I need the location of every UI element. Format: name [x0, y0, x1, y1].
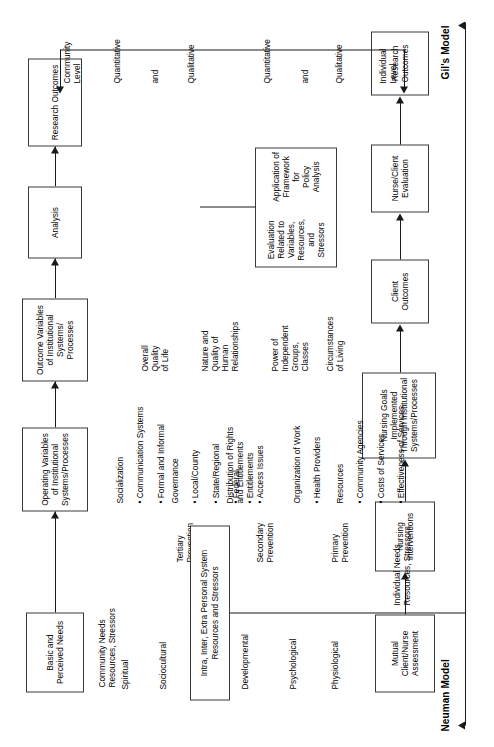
neuman-box-mutual-assessment[interactable]: Mutual Client/Nurse Assessment — [375, 614, 435, 692]
neuman-variable-sociocultural: Sociocultural — [158, 641, 168, 689]
gil-group-governance-item-2: • — [231, 498, 241, 503]
gil-group-socialization-heading: Socialization — [115, 456, 125, 503]
outcome-bracket-arm-neuman — [404, 49, 405, 87]
gil-rights-item-1-label: Access Issues — [255, 445, 265, 498]
gil-arrow-3 — [51, 258, 59, 265]
gil-resources-item-1-label: Costs of Services — [376, 433, 386, 498]
gil-outcome-quality-of-life: Overall Quality of Life — [140, 345, 170, 371]
evaluation-box-stem — [200, 206, 256, 207]
gil-box-analysis[interactable]: Analysis — [28, 186, 82, 258]
gil-orgwork-item-0-label: Health Providers — [312, 436, 322, 497]
gil-group-socialization-item-0: • — [135, 498, 145, 503]
gil-box-basic-needs[interactable]: Basic and Perceived Needs — [26, 612, 84, 692]
gil-group-governance-heading: Governance — [170, 458, 180, 503]
gil-method-and: and — [150, 69, 160, 83]
gil-group-rights-item-1: • — [255, 498, 265, 503]
gil-box-outcome-variables[interactable]: Outcome Variables of Institutional Syste… — [22, 298, 88, 381]
gil-method-quantitative: Quantitative — [112, 39, 122, 83]
neuman-prevention-secondary: Secondary Prevention — [255, 522, 275, 562]
outcome-bracket-arrow-gil — [56, 86, 64, 93]
gils-model-title: Gil's Model — [440, 25, 452, 79]
gil-group-governance-item-0: • — [190, 498, 200, 503]
neuman-connector-3 — [400, 330, 401, 372]
gil-arrow-4 — [51, 146, 59, 153]
neuman-box-stressors[interactable]: Intra, Inter, Extra Personal System Reso… — [190, 525, 230, 700]
evaluation-detail-text-1: Evaluation Related to Variables, Resourc… — [266, 216, 327, 263]
gil-outcome-human-relationships: Nature and Quality of Human Relationship… — [200, 321, 240, 371]
neuman-method-and: and — [300, 69, 310, 83]
gil-group-orgwork-item-0: • — [312, 498, 322, 503]
gil-group-socialization-item-1: • — [156, 498, 166, 503]
gil-connector-1 — [55, 511, 56, 613]
neuman-arrow-4 — [396, 213, 404, 220]
gil-outcome-level: Community Level — [62, 41, 82, 83]
neuman-box-client-outcomes[interactable]: Client Outcomes — [371, 259, 429, 323]
gil-governance-item-2-label: Federal — [231, 470, 241, 498]
baseline-rule — [465, 22, 466, 725]
gil-arrow-1 — [51, 511, 59, 518]
neuman-prevention-primary: Primary Prevention — [330, 522, 350, 562]
gil-group-resources: Resources • Community Agencies • Costs o… — [325, 405, 406, 503]
gil-group-governance: Governance • Local/County • State/Region… — [160, 443, 241, 503]
gil-group-organization-of-work: Organization of Work • Health Providers — [282, 425, 322, 503]
evaluation-detail-text-2: Application of Framework for Policy Anal… — [271, 151, 322, 202]
gil-group-orgwork-heading: Organization of Work — [292, 425, 302, 503]
gil-outcome-circumstances: Circumstances of Living — [325, 316, 345, 371]
gil-group-resources-heading: Resources — [335, 463, 345, 503]
gil-box-operating-variables[interactable]: Operating Variables of Institutional Sys… — [22, 427, 88, 511]
neuman-model-title: Neuman Model — [440, 659, 452, 731]
neuman-box-nurse-client-evaluation[interactable]: Nurse/Client Evaluation — [371, 144, 429, 212]
neuman-arrow-5 — [396, 96, 404, 103]
gil-resources-item-0-label: Community Agencies — [355, 420, 365, 498]
neuman-assessment-label: Individual Needs Resources, Stressors — [392, 526, 412, 605]
baseline-arrow-left — [458, 721, 465, 729]
gil-outcome-power-groups: Power of Independent Groups, Classes — [270, 325, 310, 371]
gil-needs-label: Community Needs Resources, Stressors — [97, 608, 117, 687]
neuman-connector-5 — [400, 102, 401, 144]
gil-group-governance-item-1: • — [211, 498, 221, 503]
neuman-method-qualitative: Qualitative — [334, 44, 344, 83]
neuman-outcome-level: Individual Level — [378, 48, 398, 83]
gil-method-qualitative: Qualitative — [186, 44, 196, 83]
baseline-arrow-right — [458, 21, 465, 29]
gil-socialization-item-1-label: Formal and Informal — [156, 424, 166, 498]
gil-group-resources-item-1: • — [376, 498, 386, 503]
neuman-connector-4 — [400, 219, 401, 259]
gil-governance-item-1-label: State/Regional — [211, 443, 221, 497]
figure-rotation-wrapper: Neuman Model Gil's Model Mutual Client/N… — [0, 0, 494, 747]
stressor-stem — [230, 612, 465, 613]
neuman-arrow-3 — [396, 324, 404, 331]
gil-socialization-item-0-label: Communication Systems — [135, 406, 145, 498]
gil-group-resources-item-2: • — [396, 498, 406, 503]
evaluation-detail-box[interactable]: Evaluation Related to Variables, Resourc… — [255, 147, 337, 267]
neuman-variable-psychological: Psychological — [288, 638, 298, 689]
gil-governance-item-0-label: Local/County — [190, 449, 200, 497]
outcome-bracket-arrow-neuman — [400, 86, 408, 93]
neuman-method-quantitative: Quantitative — [262, 39, 272, 83]
gil-group-rights-item-0: • — [245, 498, 255, 503]
neuman-variable-spiritual: Spiritual — [120, 659, 130, 689]
gil-resources-item-2-label: Effectiveness of Services — [396, 405, 406, 498]
gil-group-socialization: Socialization • Communication Systems • … — [105, 406, 166, 503]
gil-arrow-2 — [51, 381, 59, 388]
diagram-canvas: Neuman Model Gil's Model Mutual Client/N… — [0, 0, 494, 747]
neuman-variable-physiological: Physiological — [330, 641, 340, 689]
neuman-variable-developmental: Developmental — [240, 634, 250, 689]
gil-group-resources-item-0: • — [355, 498, 365, 503]
gil-rights-item-0-label: Entitlements — [245, 452, 255, 498]
